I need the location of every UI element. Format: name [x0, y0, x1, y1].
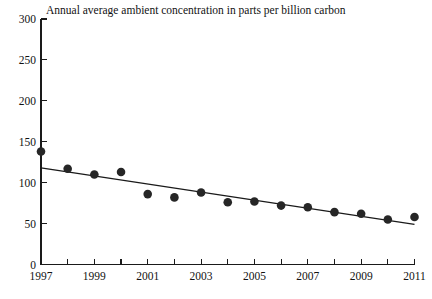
- data-point: [37, 147, 46, 156]
- data-point: [277, 201, 286, 210]
- x-axis-ticks: 19971999200120032005200720092011: [30, 259, 427, 282]
- data-point: [223, 198, 232, 207]
- y-tick-label: 200: [19, 95, 37, 107]
- chart-title: Annual average ambient concentration in …: [46, 4, 346, 17]
- data-point: [90, 170, 99, 179]
- data-point: [250, 197, 259, 206]
- data-point: [357, 209, 366, 218]
- scatter-chart: Annual average ambient concentration in …: [0, 0, 432, 299]
- x-tick-label: 1997: [30, 270, 53, 282]
- x-tick-label: 2007: [296, 270, 319, 282]
- x-tick-label: 2009: [350, 270, 373, 282]
- y-tick-label: 150: [19, 136, 37, 148]
- y-axis-ticks: 050100150200250300: [19, 13, 47, 271]
- x-tick-label: 2003: [190, 270, 213, 282]
- chart-title-group: Annual average ambient concentration in …: [46, 4, 346, 17]
- data-point: [330, 208, 339, 217]
- y-tick-label: 50: [25, 218, 37, 230]
- data-point: [384, 215, 393, 224]
- x-tick-label: 2005: [243, 270, 266, 282]
- y-tick-label: 250: [19, 54, 37, 66]
- data-point: [170, 193, 179, 202]
- data-point: [143, 190, 152, 199]
- data-point: [197, 188, 206, 197]
- y-tick-label: 300: [19, 13, 37, 25]
- axes-group: [41, 19, 415, 265]
- data-point: [303, 203, 312, 212]
- x-tick-label: 2011: [403, 270, 426, 282]
- data-point: [117, 168, 126, 177]
- x-tick-label: 2001: [136, 270, 159, 282]
- data-points-group: [37, 147, 419, 224]
- chart-page: Annual average ambient concentration in …: [0, 0, 432, 299]
- x-tick-label: 1999: [83, 270, 106, 282]
- data-point: [410, 213, 419, 222]
- data-point: [63, 164, 72, 173]
- y-tick-label: 100: [19, 177, 37, 189]
